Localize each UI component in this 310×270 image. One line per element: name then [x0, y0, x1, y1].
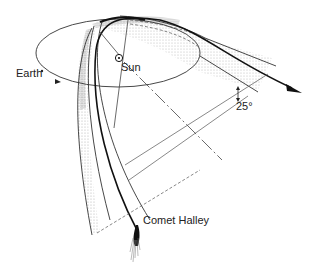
comet-nucleus-icon	[130, 225, 140, 262]
comet-label: Comet Halley	[143, 214, 210, 226]
orbit-direction-arrow-icon	[286, 84, 302, 93]
inclination-lines	[97, 74, 268, 233]
comet-halley-orbit-diagram: 25° Sun Earth Comet Halley	[0, 0, 310, 270]
earth-orbit-arrow-icon	[41, 70, 61, 84]
earth-label: Earth	[16, 67, 42, 79]
sun-label: Sun	[121, 61, 141, 73]
inclination-label: 25°	[236, 100, 253, 112]
